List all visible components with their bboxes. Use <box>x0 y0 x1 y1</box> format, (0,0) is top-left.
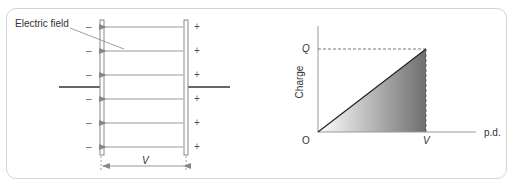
negative-sign: – <box>86 70 92 80</box>
field-label: Electric field <box>15 19 69 29</box>
negative-sign: – <box>86 118 92 128</box>
figure-svg <box>0 0 512 187</box>
field-label-leader <box>70 28 124 49</box>
negative-sign: – <box>86 142 92 152</box>
negative-sign: – <box>86 22 92 32</box>
positive-sign: + <box>194 22 200 32</box>
capacitor-diagram <box>59 20 230 172</box>
origin-label: O <box>302 136 310 146</box>
y-axis-label: Charge <box>295 66 305 99</box>
charge-graph <box>318 26 476 132</box>
negative-sign: – <box>86 46 92 56</box>
positive-sign: + <box>194 118 200 128</box>
plate-voltage-label: V <box>142 156 149 166</box>
positive-sign: + <box>194 46 200 56</box>
field-lines <box>106 27 183 147</box>
positive-sign: + <box>194 94 200 104</box>
v-label: V <box>423 136 430 146</box>
positive-sign: + <box>194 142 200 152</box>
negative-sign: – <box>86 94 92 104</box>
q-label: Q <box>302 44 310 54</box>
positive-sign: + <box>194 70 200 80</box>
x-axis-label: p.d. <box>484 128 501 138</box>
positive-plate <box>184 20 188 155</box>
